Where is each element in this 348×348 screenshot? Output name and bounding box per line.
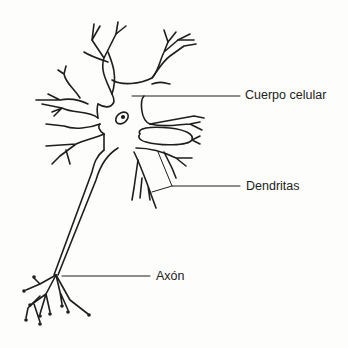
cell-body-outline (36, 22, 204, 275)
neuron-illustration (0, 0, 348, 348)
leader-dendrites (152, 152, 240, 192)
neuron-diagram: Cuerpo celular Dendritas Axón (0, 0, 348, 348)
label-cell-body: Cuerpo celular (245, 89, 326, 102)
label-axon: Axón (156, 270, 185, 283)
leader-lines (62, 96, 240, 276)
label-dendrites: Dendritas (246, 180, 300, 193)
nucleus (113, 110, 130, 127)
axon-terminals (22, 275, 91, 326)
